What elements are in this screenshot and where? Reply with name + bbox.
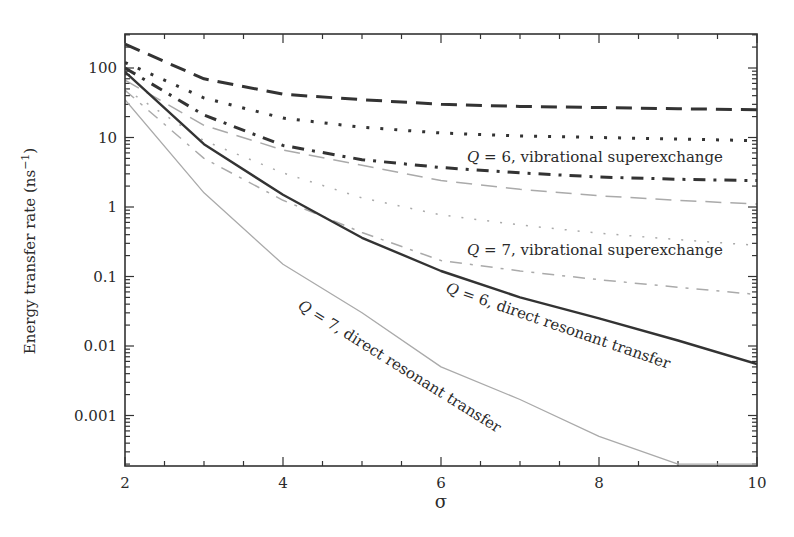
series-line-6: [125, 72, 757, 364]
x-tick-label: 10: [747, 474, 766, 492]
y-tick-label: 0.1: [93, 268, 117, 286]
x-axis-tick-labels: 246810: [120, 474, 766, 492]
x-axis-title: σ: [435, 491, 447, 512]
y-tick-label: 100: [88, 59, 117, 77]
x-tick-label: 2: [120, 474, 130, 492]
energy-transfer-chart: 1001010.10.010.001 246810 Q = 6, vibrati…: [0, 0, 794, 537]
curve-annotation: Q = 6, vibrational superexchange: [467, 148, 723, 166]
y-tick-label: 0.001: [74, 407, 117, 425]
curve-annotation: Q = 7, vibrational superexchange: [467, 241, 723, 259]
y-axis-tick-labels: 1001010.10.010.001: [74, 59, 117, 425]
series-line-3: [125, 80, 757, 204]
x-tick-label: 6: [436, 474, 446, 492]
series-line-4: [125, 89, 757, 246]
series-line-5: [125, 90, 757, 294]
series-line-0: [125, 44, 757, 110]
y-tick-label: 0.01: [84, 337, 117, 355]
series-line-1: [125, 63, 757, 141]
curve-annotation: Q = 7, direct resonant transfer: [295, 296, 505, 437]
y-axis-title: Energy transfer rate (ns−1): [19, 148, 39, 354]
curve-annotation: Q = 6, direct resonant transfer: [444, 279, 674, 373]
y-tick-label: 1: [107, 198, 117, 216]
y-tick-label: 10: [98, 129, 117, 147]
x-tick-label: 8: [594, 474, 604, 492]
x-tick-label: 4: [278, 474, 288, 492]
